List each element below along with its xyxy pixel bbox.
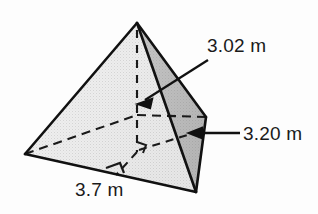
dimension-label-slant-height: 3.20 m	[243, 124, 302, 143]
pyramid-figure: 3.02 m 3.20 m 3.7 m	[0, 0, 318, 214]
leader-slant	[189, 128, 240, 138]
dimension-label-height: 3.02 m	[207, 36, 266, 55]
pyramid-drawing	[0, 0, 318, 214]
dimension-label-base-edge: 3.7 m	[75, 180, 124, 199]
